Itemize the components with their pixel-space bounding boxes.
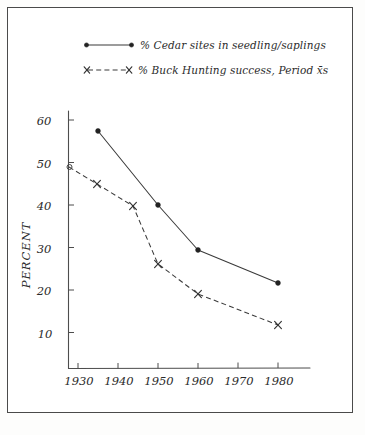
x-tick-label-1930: 1930 xyxy=(64,374,93,388)
data-point-buck-1955 xyxy=(155,260,162,267)
y-tick-label-20: 20 xyxy=(36,284,52,298)
legend-dot-left-icon xyxy=(84,43,88,47)
data-point-cedar-1935 xyxy=(96,129,101,134)
series-cedar-line xyxy=(98,131,278,283)
chart-figure: % Cedar sites in seedling/saplings % Buc… xyxy=(0,0,365,435)
y-tick-label-40: 40 xyxy=(36,199,52,213)
y-tick-label-30: 30 xyxy=(37,242,52,256)
legend-dot-right-icon xyxy=(129,43,133,47)
legend: % Cedar sites in seedling/saplings % Buc… xyxy=(84,39,329,76)
x-axis-tick-labels: 1930 1940 1950 1960 1970 1980 xyxy=(64,374,293,388)
data-point-cedar-1965 xyxy=(196,248,201,253)
data-point-buck-1980 xyxy=(275,321,282,328)
y-axis-tick-labels: 60 50 40 30 20 10 xyxy=(36,114,53,341)
series-buck-hunting xyxy=(67,165,281,329)
series-buck-line xyxy=(69,167,278,325)
y-tick-label-10: 10 xyxy=(38,327,53,341)
legend-entry-cedar: % Cedar sites in seedling/saplings xyxy=(84,39,326,51)
x-tick-label-1950: 1950 xyxy=(144,374,173,388)
x-axis-line xyxy=(69,368,311,369)
legend-label-cedar: % Cedar sites in seedling/saplings xyxy=(140,39,326,51)
x-tick-label-1960: 1960 xyxy=(184,374,213,388)
legend-entry-buck: % Buck Hunting success, Period x̄s xyxy=(84,64,329,76)
legend-x-right-icon xyxy=(126,67,131,73)
series-cedar-sites xyxy=(96,129,281,286)
x-tick-label-1970: 1970 xyxy=(224,374,253,388)
data-point-cedar-1980 xyxy=(276,281,281,286)
legend-label-buck: % Buck Hunting success, Period x̄s xyxy=(138,64,329,76)
x-tick-label-1940: 1940 xyxy=(104,374,133,388)
y-tick-label-50: 50 xyxy=(37,157,52,171)
y-axis-title: PERCENT xyxy=(19,221,33,289)
data-point-buck-1965 xyxy=(195,290,202,297)
data-point-buck-1946 xyxy=(130,202,137,209)
chart-canvas: % Cedar sites in seedling/saplings % Buc… xyxy=(0,0,365,435)
data-point-cedar-1955 xyxy=(156,203,161,208)
y-tick-label-60: 60 xyxy=(37,114,52,128)
x-tick-label-1980: 1980 xyxy=(264,374,293,388)
axes: 60 50 40 30 20 10 PERCENT 1930 1 xyxy=(19,111,310,388)
data-point-buck-1937 xyxy=(94,180,101,187)
y-axis-ticks xyxy=(69,120,75,333)
